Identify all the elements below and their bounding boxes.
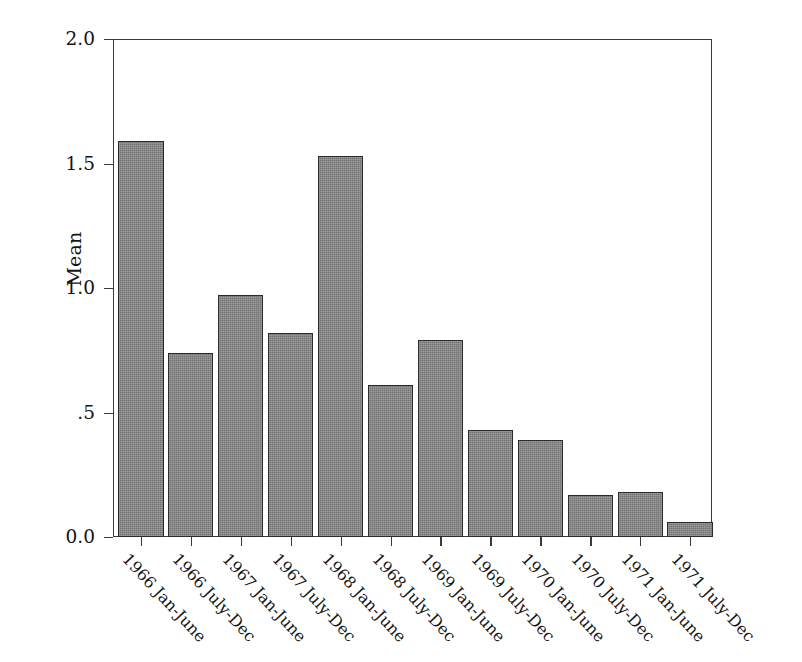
- y-axis-tick-label-group: 0.0.51.01.52.0: [0, 0, 113, 662]
- bar-chart-figure: Mean 0.0.51.01.52.0 1966 Jan-June1966 Ju…: [0, 0, 802, 662]
- y-axis-tick-label: 1.0: [66, 279, 95, 298]
- y-axis-tick-mark: [104, 39, 113, 40]
- y-axis-tick-label: 2.0: [66, 30, 95, 49]
- x-axis-tick-mark: [440, 537, 441, 546]
- bar: [118, 141, 163, 537]
- bar: [468, 430, 513, 537]
- bar: [168, 353, 213, 537]
- bar: [618, 492, 663, 537]
- x-axis-tick-mark: [241, 537, 242, 546]
- bar: [368, 385, 413, 537]
- x-axis-tick-label-group: 1966 Jan-June1966 July-Dec1967 Jan-June1…: [113, 551, 802, 662]
- x-axis-tick-mark: [291, 537, 292, 546]
- x-axis-tick-mark: [341, 537, 342, 546]
- y-axis-tick-mark: [104, 537, 113, 538]
- bar: [268, 333, 313, 537]
- x-axis-tick-mark: [490, 537, 491, 546]
- x-axis-tick-mark: [141, 537, 142, 546]
- bar: [218, 295, 263, 537]
- x-axis-tick-mark-group: [113, 537, 712, 549]
- x-axis-tick-mark: [590, 537, 591, 546]
- x-axis-tick-mark: [391, 537, 392, 546]
- x-axis-tick-mark: [640, 537, 641, 546]
- y-axis-tick-mark: [104, 413, 113, 414]
- bar: [418, 340, 463, 537]
- y-axis-tick-label: 0.0: [66, 528, 95, 547]
- y-axis-tick-mark: [104, 164, 113, 165]
- y-axis-tick-label: 1.5: [66, 154, 95, 173]
- bar: [568, 495, 613, 537]
- x-axis-tick-mark: [191, 537, 192, 546]
- y-axis-tick-mark: [104, 288, 113, 289]
- y-axis-tick-label: .5: [77, 403, 95, 422]
- bar: [518, 440, 563, 537]
- bar: [318, 156, 363, 537]
- x-axis-tick-mark: [540, 537, 541, 546]
- x-axis-tick-mark: [690, 537, 691, 546]
- bars-group: [113, 39, 712, 537]
- bar: [667, 522, 712, 537]
